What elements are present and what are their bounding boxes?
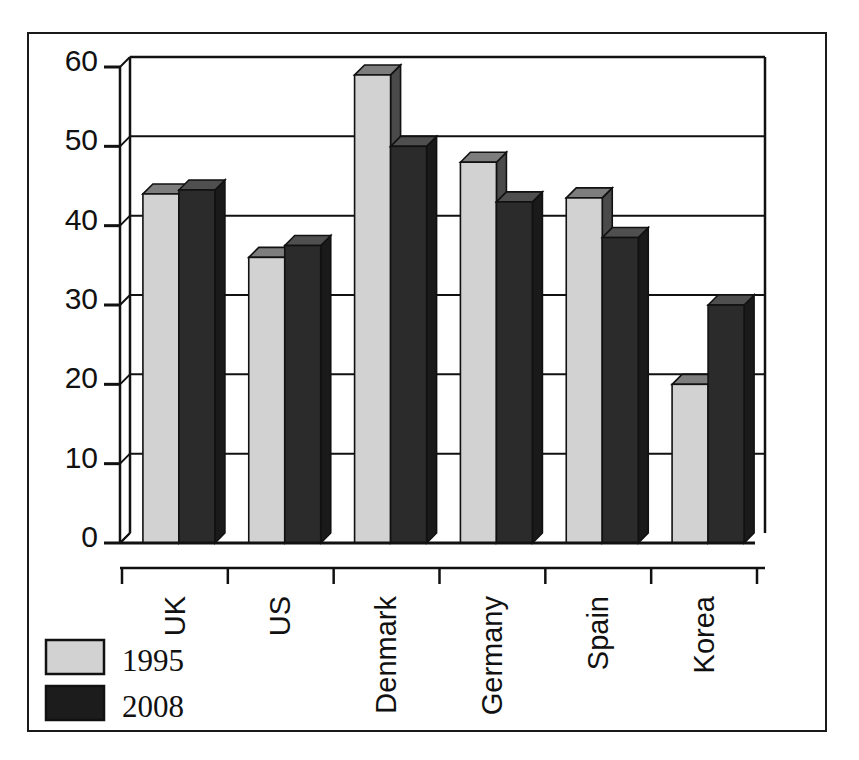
bar-front-face (391, 146, 427, 543)
x-tick-label-germany: Germany (476, 596, 508, 716)
bar-uk-2008 (179, 180, 225, 543)
legend-swatch (46, 640, 104, 674)
bar-front-face (285, 246, 321, 544)
legend-item-1995: 1995 (46, 640, 184, 678)
y-tick-label: 50 (65, 123, 98, 156)
legend-item-2008: 2008 (46, 686, 184, 724)
bar-front-face (566, 198, 602, 543)
y-tick-label: 40 (65, 203, 98, 236)
bar-side-face (638, 228, 648, 543)
x-tick-label-korea: Korea (688, 595, 720, 673)
bar-front-face (460, 162, 496, 543)
bar-us-2008 (285, 236, 331, 544)
chart-figure: 0102030405060 UKUSDenmarkGermanySpainKor… (0, 0, 859, 760)
bar-front-face (496, 202, 532, 543)
x-tick-label-spain: Spain (582, 596, 614, 670)
x-axis-ticks (120, 568, 765, 584)
legend-label: 2008 (122, 689, 184, 724)
bar-side-face (215, 180, 225, 543)
bar-side-face (427, 136, 437, 543)
bar-side-face (532, 192, 542, 543)
x-tick-label-denmark: Denmark (370, 596, 402, 714)
bar-front-face (602, 238, 638, 543)
y-tick-label: 10 (65, 441, 98, 474)
bar-spain-2008 (602, 228, 648, 543)
legend-label: 1995 (122, 643, 184, 678)
bar-front-face (143, 194, 179, 543)
y-tick-label: 0 (81, 520, 98, 553)
chart-legend: 19952008 (46, 640, 184, 724)
x-tick-label-uk: UK (159, 595, 191, 636)
bar-side-face (321, 236, 331, 544)
category-labels: UKUSDenmarkGermanySpainKorea (159, 595, 720, 715)
x-tick-label-us: US (264, 596, 296, 636)
bar-germany-2008 (496, 192, 542, 543)
bar-korea-2008 (708, 295, 754, 543)
bar-front-face (672, 384, 708, 543)
y-tick-label: 20 (65, 361, 98, 394)
bar-side-face (744, 295, 754, 543)
bar-denmark-2008 (391, 136, 437, 543)
bar-chart: 0102030405060 UKUSDenmarkGermanySpainKor… (0, 0, 859, 760)
y-tick-label: 30 (65, 282, 98, 315)
bar-front-face (708, 305, 744, 543)
bar-front-face (355, 75, 391, 543)
legend-swatch (46, 686, 104, 720)
bar-front-face (179, 190, 215, 543)
y-axis-ticks: 0102030405060 (65, 44, 120, 553)
y-tick-label: 60 (65, 44, 98, 77)
bar-front-face (249, 257, 285, 543)
